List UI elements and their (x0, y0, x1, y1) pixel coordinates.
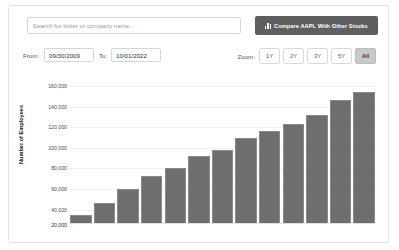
search-input[interactable] (27, 17, 241, 34)
y-axis-ticks: 160,000140,000120,000100,00080,00060,000… (31, 72, 67, 242)
bar[interactable] (141, 176, 162, 224)
y-tick-label: 40,000 (31, 207, 67, 213)
zoom-button-5y[interactable]: 5Y (331, 48, 352, 64)
employees-bar-chart: Number of Employees 160,000140,000120,00… (9, 72, 388, 242)
zoom-button-1y[interactable]: 1Y (259, 48, 280, 64)
zoom-button-group: 1Y 2Y 3Y 5Y All (259, 48, 376, 64)
bar[interactable] (259, 131, 280, 224)
bar[interactable] (117, 189, 138, 224)
search-toolbar: Compare AAPL With Other Stocks (9, 6, 388, 44)
bar[interactable] (188, 156, 209, 225)
bar[interactable] (330, 100, 351, 224)
from-date-input[interactable]: 09/30/2009 (44, 48, 94, 62)
bar[interactable] (212, 150, 233, 224)
y-tick-label: 100,000 (31, 145, 67, 151)
compare-stocks-button[interactable]: Compare AAPL With Other Stocks (255, 16, 378, 35)
bar[interactable] (94, 203, 115, 224)
zoom-button-all[interactable]: All (355, 48, 376, 64)
y-tick-label: 140,000 (31, 104, 67, 110)
y-tick-label: 80,000 (31, 165, 67, 171)
compare-button-label: Compare AAPL With Other Stocks (274, 23, 368, 29)
bar[interactable] (306, 115, 327, 224)
zoom-label: Zoom: (237, 53, 255, 60)
to-label: To: (99, 52, 107, 59)
stock-chart-card: Compare AAPL With Other Stocks From: 09/… (8, 5, 389, 243)
bar[interactable] (235, 138, 256, 224)
zoom-button-2y[interactable]: 2Y (283, 48, 304, 64)
y-tick-label: 160,000 (31, 83, 67, 89)
to-date-input[interactable]: 10/01/2022 (111, 48, 161, 62)
y-axis-title: Number of Employees (18, 105, 24, 164)
date-zoom-controls: From: 09/30/2009 To: 10/01/2022 Zoom: 1Y… (9, 44, 388, 72)
bar-chart-icon (265, 23, 271, 29)
to-date-value: 10/01/2022 (116, 52, 147, 59)
from-label: From: (23, 52, 39, 59)
bar[interactable] (353, 92, 374, 224)
from-date-value: 09/30/2009 (49, 52, 80, 59)
x-axis-line (69, 223, 376, 224)
bar-series (69, 80, 376, 224)
bar[interactable] (283, 124, 304, 224)
plot-area (69, 80, 376, 224)
y-axis-bottom-tick: 20,000 (31, 222, 67, 228)
bar[interactable] (165, 168, 186, 224)
zoom-button-3y[interactable]: 3Y (307, 48, 328, 64)
zoom-controls: Zoom: 1Y 2Y 3Y 5Y All (237, 48, 376, 64)
y-tick-label: 120,000 (31, 124, 67, 130)
y-tick-label: 60,000 (31, 186, 67, 192)
